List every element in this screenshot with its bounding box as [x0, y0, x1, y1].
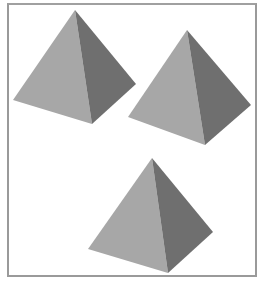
pyramid-top-right — [128, 30, 251, 145]
pyramid-top-left — [13, 10, 136, 124]
pyramid-bottom — [88, 158, 213, 273]
pyramids-scene — [0, 0, 262, 282]
